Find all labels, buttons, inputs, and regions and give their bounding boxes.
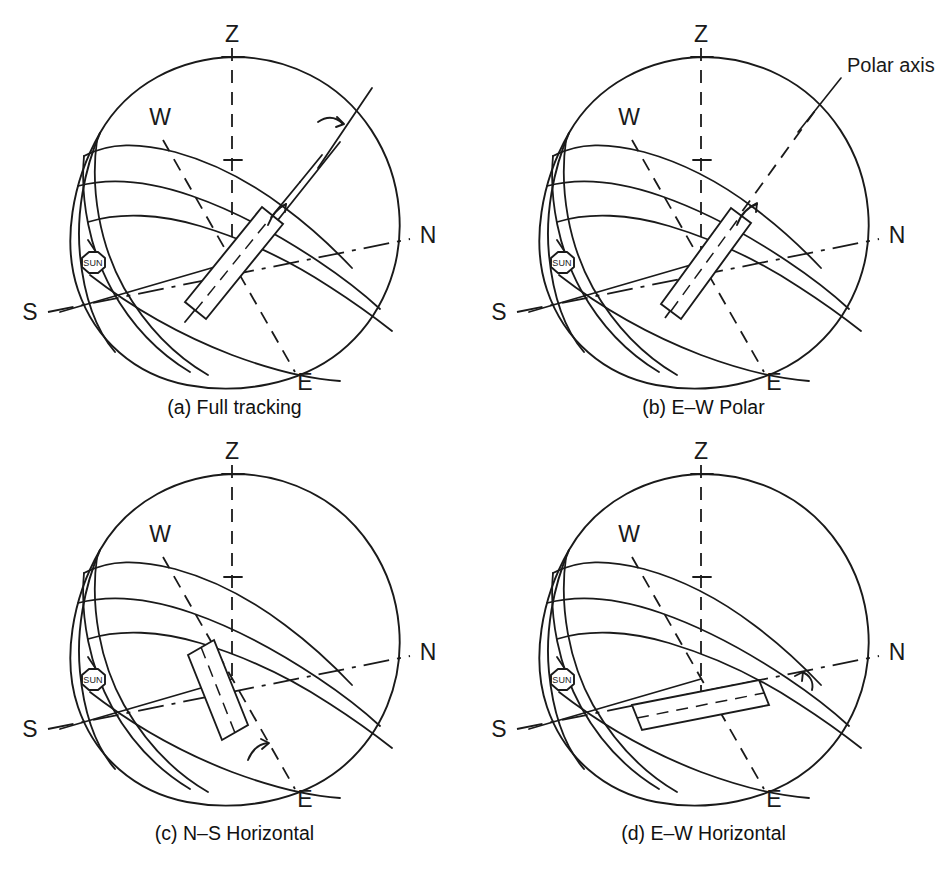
label-zenith: Z — [694, 438, 708, 464]
label-north: N — [420, 639, 437, 665]
sun-marker-label: SUN — [552, 675, 572, 685]
sun-marker-label: SUN — [83, 258, 103, 268]
label-west: W — [149, 521, 171, 547]
label-east: E — [766, 369, 781, 395]
polar-axis-label: Polar axis — [847, 54, 935, 76]
label-zenith: Z — [225, 21, 239, 47]
label-east: E — [297, 786, 312, 812]
caption-panel-d: (d) E–W Horizontal — [469, 822, 938, 845]
polar-axis-leader — [798, 78, 841, 132]
panel-full-tracking: SUN Z N S E W (a) Full tracking — [0, 0, 469, 437]
label-north: N — [889, 639, 906, 665]
celestial-sphere-outline — [70, 474, 399, 806]
label-east: E — [766, 786, 781, 812]
caption-panel-c: (c) N–S Horizontal — [0, 822, 469, 845]
caption-panel-a: (a) Full tracking — [0, 396, 469, 419]
label-west: W — [618, 521, 640, 547]
sun-marker-label: SUN — [552, 258, 572, 268]
label-south: S — [491, 716, 506, 742]
caption-panel-b: (b) E–W Polar — [469, 396, 938, 419]
panel-ew-polar: SUN Polar axis Z N S E W (b) E–W Polar — [469, 0, 938, 437]
celestial-sphere-outline — [539, 474, 868, 806]
great-circle-arc-west-outer — [564, 557, 677, 792]
panel-ew-horizontal: SUN Z N S E W (d) E–W Horizontal — [469, 437, 938, 874]
label-north: N — [889, 222, 906, 248]
label-zenith: Z — [694, 21, 708, 47]
label-west: W — [618, 104, 640, 130]
celestial-sphere-outline — [70, 57, 399, 389]
panel-ns-horizontal: SUN Z N S E W (c) N–S Horizontal — [0, 437, 469, 874]
label-east: E — [297, 369, 312, 395]
great-circle-arc-west-outer — [95, 140, 208, 375]
label-zenith: Z — [225, 438, 239, 464]
label-south: S — [22, 299, 37, 325]
great-circle-arc-west-outer — [95, 557, 208, 792]
label-south: S — [22, 716, 37, 742]
sun-marker-label: SUN — [83, 675, 103, 685]
label-west: W — [149, 104, 171, 130]
celestial-sphere-outline — [539, 57, 868, 389]
great-circle-arc-west-outer — [564, 140, 677, 375]
solar-tracking-figure: SUN Z N S E W (a) Full tracking — [0, 0, 938, 874]
label-south: S — [491, 299, 506, 325]
label-north: N — [420, 222, 437, 248]
